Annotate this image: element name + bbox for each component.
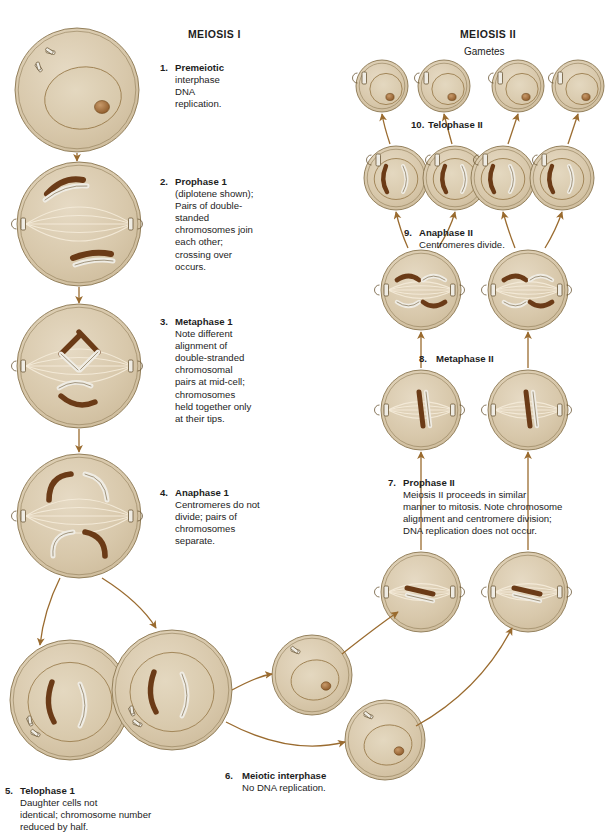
telophase-2-cell-right-b	[530, 146, 594, 210]
centriole-satellite	[12, 219, 17, 229]
meiotic-interphase-cell-upper	[272, 635, 352, 715]
step-10-title: Telophase II	[428, 119, 483, 130]
step-10-number: 10.	[411, 119, 424, 131]
prophase-2-cell-right	[482, 552, 572, 632]
anaphase-1-cell	[12, 454, 143, 578]
centriole-body	[558, 284, 563, 296]
step-7-line-2: manner to mitosis. Note chromosome	[403, 501, 562, 512]
step-4-title: Anaphase 1	[175, 487, 229, 498]
nucleolus	[321, 682, 331, 690]
step-2-line-7: occurs.	[175, 261, 206, 272]
step-3-title: Metaphase 1	[175, 316, 233, 327]
nuclear-envelope	[28, 662, 112, 741]
step-2-caption: 2. Prophase 1 (diplotene shown); Pairs o…	[160, 176, 285, 273]
step-3-line-8: at their tips.	[175, 413, 225, 424]
step-7-line-3: alignment and centromere division;	[403, 513, 552, 524]
prophase-2-cell-left	[375, 552, 465, 632]
centriole-body	[21, 218, 26, 230]
nucleolus	[386, 93, 394, 100]
nucleolus	[582, 93, 590, 100]
step-4-line-2: divide; pairs of	[175, 511, 237, 522]
gamete-cell-4	[549, 60, 605, 112]
nucleolus	[448, 93, 456, 100]
step-8-caption: 8. Metaphase II	[419, 353, 494, 365]
centriole-body	[491, 404, 496, 416]
step-1-title: Premeiotic	[175, 62, 224, 73]
step-5-line-2: identical; chromosome number	[20, 809, 151, 820]
step-2-line-1: (diplotene shown);	[175, 188, 253, 199]
flow-arrow	[342, 612, 398, 654]
meiosis-2-heading: MEIOSIS II	[460, 28, 516, 40]
flow-arrow	[508, 114, 518, 144]
step-7-line-1: Meiosis II proceeds in similar	[403, 489, 526, 500]
step-2-number: 2.	[160, 176, 168, 188]
centriole-satellite	[482, 405, 487, 415]
step-7-title: Prophase II	[403, 477, 455, 488]
step-5-line-3: reduced by half.	[20, 821, 88, 832]
step-2-line-6: crossing over	[175, 249, 232, 260]
flow-arrow	[40, 578, 60, 645]
metaphase-1-cell	[12, 304, 143, 428]
step-7-line-4: DNA replication does not occur.	[403, 525, 537, 536]
nucleolus	[95, 101, 110, 114]
gametes-label: Gametes	[464, 46, 505, 57]
meiotic-interphase-cell-lower	[345, 700, 425, 780]
centriole-body	[491, 284, 496, 296]
flow-arrow	[568, 114, 578, 144]
step-9-caption: 9. Anaphase II Centromeres divide.	[404, 227, 564, 251]
centriole-satellite	[482, 587, 487, 597]
step-3-caption: 3. Metaphase 1 Note different alignment …	[160, 316, 290, 425]
centriole-body	[376, 154, 381, 166]
centriole-body	[129, 218, 134, 230]
metaphase-2-cell-left	[375, 370, 465, 450]
step-2-line-4: chromosomes join	[175, 224, 253, 235]
centriole-satellite	[375, 285, 380, 295]
telophase-1-cell-left	[10, 640, 130, 760]
centriole-body	[498, 72, 503, 84]
centriole-body	[384, 404, 389, 416]
step-4-line-3: chromosomes	[175, 523, 235, 534]
step-6-title: Meiotic interphase	[242, 770, 326, 781]
step-10-caption: 10. Telophase II	[411, 119, 483, 131]
flow-arrow	[232, 674, 272, 690]
centriole-body	[542, 154, 547, 166]
step-1-line-2: DNA	[175, 86, 195, 97]
step-3-line-2: alignment of	[175, 340, 227, 351]
step-5-line-1: Daughter cells not	[20, 797, 97, 808]
step-5-number: 5.	[5, 785, 13, 797]
centriole-satellite	[12, 511, 17, 521]
centriole-satellite	[375, 405, 380, 415]
centriole-body	[21, 510, 26, 522]
centriole-body	[558, 72, 563, 84]
centriole-body	[451, 586, 456, 598]
step-3-line-6: chromosomes	[175, 389, 235, 400]
nucleolus	[522, 93, 530, 100]
step-9-number: 9.	[404, 227, 412, 239]
centriole-satellite	[482, 285, 487, 295]
step-2-line-2: Pairs of double-	[175, 200, 242, 211]
step-8-title: Metaphase II	[436, 353, 494, 364]
step-9-line-1: Centromeres divide.	[419, 239, 505, 250]
telophase-1-cell-right	[112, 630, 232, 750]
step-8-number: 8.	[419, 353, 427, 365]
prophase-1-cell	[12, 162, 143, 286]
anaphase-2-cell-right	[482, 250, 572, 330]
premeiotic-interphase-cell	[15, 28, 139, 152]
centriole-rod-b	[28, 716, 32, 724]
step-4-number: 4.	[160, 487, 168, 499]
centriole-body	[558, 404, 563, 416]
telophase-2-cell-right-a	[471, 146, 535, 210]
flow-arrow	[226, 722, 345, 746]
step-7-number: 7.	[388, 477, 396, 489]
step-6-line-1: No DNA replication.	[242, 782, 326, 793]
step-7-caption: 7. Prophase II Meiosis II proceeds in si…	[388, 477, 610, 537]
step-2-line-5: each other;	[175, 236, 223, 247]
telophase-2-cell-left-a	[364, 146, 428, 210]
centriole-body	[129, 510, 134, 522]
step-6-number: 6.	[225, 770, 233, 782]
step-2-line-3: standed	[175, 212, 209, 223]
centriole-rod-b	[130, 706, 134, 714]
centriole-body	[21, 360, 26, 372]
step-1-caption: 1. Premeiotic interphase DNA replication…	[160, 62, 280, 110]
